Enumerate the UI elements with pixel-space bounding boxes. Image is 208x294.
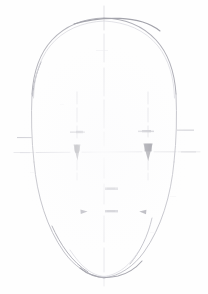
- face-construction-drawing: [0, 0, 208, 294]
- head-outline-ghost-left: [34, 21, 105, 98]
- paper-smudges: [30, 50, 176, 233]
- sketch-canvas: [0, 0, 208, 294]
- brow-tick-right: [138, 130, 154, 132]
- tick-marks: [17, 130, 196, 153]
- edge-tick-right: [177, 130, 194, 131]
- left-eye-wedge-core: [74, 145, 79, 153]
- mouth-mark-left: [80, 210, 87, 214]
- head-outline-left-upper: [32, 18, 104, 94]
- construction-guides: [14, 6, 200, 286]
- head-outline-right-upper: [104, 18, 176, 94]
- horizontal-eye-line: [14, 152, 200, 153]
- brow-tick-left: [70, 131, 85, 133]
- edge-tick-left: [17, 137, 32, 138]
- head-outline-jaw-accent-right: [130, 218, 152, 264]
- head-outline-ghost-right: [104, 21, 175, 98]
- right-eye-wedge-core: [145, 144, 152, 152]
- edge-tick-left-lower: [20, 152, 30, 153]
- mouth-mark-right: [139, 210, 146, 214]
- head-outline-crown-accent: [74, 18, 160, 31]
- edge-tick-right-lower: [181, 151, 196, 152]
- feature-marks: [80, 187, 146, 214]
- head-outline-right-lower: [104, 162, 174, 278]
- mouth-mark-center-core: [107, 210, 115, 212]
- nose-tick-core: [107, 188, 115, 190]
- head-outline-left-mid: [32, 94, 34, 162]
- head-outline-left-lower: [34, 162, 104, 278]
